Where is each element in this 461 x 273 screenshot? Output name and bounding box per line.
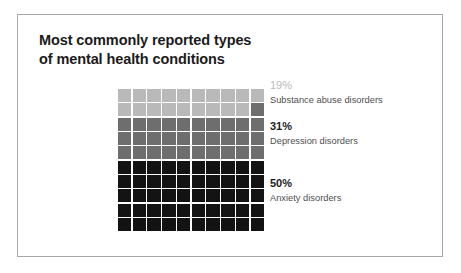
waffle-cell bbox=[236, 103, 249, 116]
page-title-line-2: of mental health conditions bbox=[39, 50, 339, 69]
waffle-cell bbox=[133, 161, 146, 174]
waffle-cell bbox=[221, 103, 234, 116]
waffle-cell bbox=[133, 132, 146, 145]
waffle-cell bbox=[177, 118, 190, 131]
waffle-cell bbox=[221, 204, 234, 217]
waffle-cell bbox=[236, 189, 249, 202]
waffle-cell bbox=[206, 204, 219, 217]
waffle-cell bbox=[192, 89, 205, 102]
waffle-cell bbox=[221, 218, 234, 231]
waffle-cell bbox=[251, 89, 264, 102]
waffle-cell bbox=[221, 132, 234, 145]
waffle-cell bbox=[133, 189, 146, 202]
waffle-cell bbox=[147, 218, 160, 231]
legend-entry: 19%Substance abuse disorders bbox=[270, 79, 430, 106]
waffle-cell bbox=[206, 161, 219, 174]
waffle-cell bbox=[251, 204, 264, 217]
waffle-cell bbox=[177, 218, 190, 231]
waffle-cell bbox=[177, 161, 190, 174]
waffle-cell bbox=[192, 161, 205, 174]
waffle-cell bbox=[206, 146, 219, 159]
waffle-cell bbox=[177, 204, 190, 217]
waffle-cell bbox=[118, 132, 131, 145]
waffle-cell bbox=[251, 118, 264, 131]
waffle-cell bbox=[162, 146, 175, 159]
waffle-cell bbox=[251, 175, 264, 188]
waffle-cell bbox=[192, 132, 205, 145]
waffle-cell bbox=[162, 118, 175, 131]
legend-value: 31% bbox=[270, 120, 430, 134]
waffle-cell bbox=[206, 189, 219, 202]
waffle-cell bbox=[162, 161, 175, 174]
waffle-cell bbox=[251, 146, 264, 159]
waffle-cell bbox=[118, 161, 131, 174]
legend-entry: 31%Depression disorders bbox=[270, 120, 430, 147]
waffle-cell bbox=[206, 118, 219, 131]
waffle-cell bbox=[192, 118, 205, 131]
waffle-cell bbox=[251, 132, 264, 145]
waffle-cell bbox=[162, 175, 175, 188]
waffle-cell bbox=[147, 118, 160, 131]
waffle-cell bbox=[147, 132, 160, 145]
waffle-cell bbox=[162, 103, 175, 116]
waffle-cell bbox=[192, 189, 205, 202]
waffle-cell bbox=[147, 89, 160, 102]
waffle-cell bbox=[192, 146, 205, 159]
waffle-cell bbox=[236, 89, 249, 102]
waffle-cell bbox=[118, 218, 131, 231]
waffle-chart bbox=[118, 89, 264, 231]
waffle-cell bbox=[192, 103, 205, 116]
waffle-cell bbox=[221, 89, 234, 102]
waffle-cell bbox=[133, 103, 146, 116]
waffle-cell bbox=[221, 146, 234, 159]
waffle-cell bbox=[206, 103, 219, 116]
waffle-cell bbox=[133, 118, 146, 131]
page-title: Most commonly reported types of mental h… bbox=[39, 31, 339, 69]
waffle-cell bbox=[177, 132, 190, 145]
waffle-cell bbox=[162, 132, 175, 145]
waffle-cell bbox=[147, 189, 160, 202]
waffle-cell bbox=[221, 189, 234, 202]
waffle-cell bbox=[192, 218, 205, 231]
waffle-cell bbox=[162, 204, 175, 217]
waffle-cell bbox=[162, 189, 175, 202]
waffle-cell bbox=[147, 146, 160, 159]
legend-label: Substance abuse disorders bbox=[270, 95, 430, 107]
waffle-cell bbox=[118, 89, 131, 102]
waffle-cell bbox=[192, 204, 205, 217]
legend-value: 19% bbox=[270, 79, 430, 93]
waffle-cell bbox=[221, 175, 234, 188]
waffle-cell bbox=[206, 175, 219, 188]
waffle-cell bbox=[177, 175, 190, 188]
waffle-cell bbox=[236, 146, 249, 159]
waffle-cell bbox=[162, 218, 175, 231]
infographic-card: Most commonly reported types of mental h… bbox=[17, 14, 443, 257]
waffle-cell bbox=[236, 204, 249, 217]
waffle-cell bbox=[177, 146, 190, 159]
waffle-cell bbox=[177, 103, 190, 116]
waffle-cell bbox=[133, 204, 146, 217]
waffle-cell bbox=[118, 189, 131, 202]
waffle-cell bbox=[118, 146, 131, 159]
waffle-cell bbox=[133, 175, 146, 188]
legend-entry: 50%Anxiety disorders bbox=[270, 177, 430, 204]
waffle-cell bbox=[118, 118, 131, 131]
waffle-cell bbox=[236, 218, 249, 231]
waffle-cell bbox=[133, 146, 146, 159]
waffle-cell bbox=[236, 175, 249, 188]
waffle-cell bbox=[118, 103, 131, 116]
waffle-cell bbox=[147, 204, 160, 217]
waffle-cell bbox=[177, 189, 190, 202]
waffle-cell bbox=[133, 89, 146, 102]
waffle-cell bbox=[236, 132, 249, 145]
waffle-cell bbox=[147, 175, 160, 188]
waffle-cell bbox=[118, 204, 131, 217]
waffle-cell bbox=[147, 161, 160, 174]
waffle-cell bbox=[118, 175, 131, 188]
waffle-cell bbox=[251, 189, 264, 202]
waffle-cell bbox=[236, 118, 249, 131]
waffle-cell bbox=[206, 132, 219, 145]
waffle-cell bbox=[221, 118, 234, 131]
waffle-cell bbox=[236, 161, 249, 174]
waffle-cell bbox=[177, 89, 190, 102]
